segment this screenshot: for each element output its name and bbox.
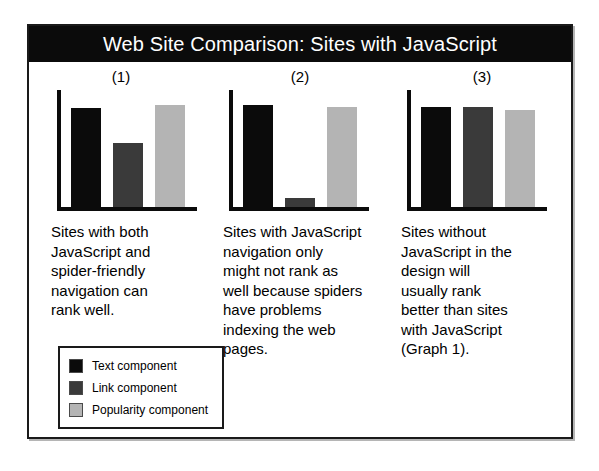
panel-1-number: (1) [15,66,227,88]
legend-item-text-component: Text component [69,355,214,376]
panel-1: (1) Sites with both JavaScript and spide… [51,66,227,320]
bar-chart-2 [223,90,383,218]
x-axis [229,207,369,211]
bar-popularity-component [155,105,185,207]
panel-2-number: (2) [201,66,399,88]
bar-popularity-component [505,110,535,207]
y-axis [57,90,61,211]
bar-link-component [463,107,493,207]
legend-item-popularity-component: Popularity component [69,399,214,420]
panel-2: (2) Sites with JavaScript navigation onl… [223,66,399,359]
bar-group [71,91,197,207]
legend-label: Link component [92,381,177,395]
bar-link-component [113,143,143,207]
bar-group [421,91,547,207]
panel-1-caption: Sites with both JavaScript and spider-fr… [51,222,223,320]
bar-popularity-component [327,107,357,207]
bar-text-component [421,107,451,207]
bar-chart-3 [401,90,561,218]
legend-label: Text component [92,359,177,373]
bar-link-component [285,198,315,207]
legend-swatch-icon [69,359,83,373]
figure-frame: Web Site Comparison: Sites with JavaScri… [27,24,573,439]
bar-chart-1 [51,90,211,218]
x-axis [57,207,197,211]
x-axis [407,207,547,211]
panel-2-caption: Sites with JavaScript navigation only mi… [223,222,395,359]
legend-swatch-icon [69,381,83,395]
bar-group [243,91,369,207]
bar-text-component [243,105,273,207]
page-title: Web Site Comparison: Sites with JavaScri… [103,33,497,56]
y-axis [407,90,411,211]
legend-swatch-icon [69,403,83,417]
legend-item-link-component: Link component [69,377,214,398]
chart-legend: Text component Link component Popularity… [58,346,224,429]
panel-3-caption: Sites without JavaScript in the design w… [401,222,573,359]
legend-label: Popularity component [92,403,208,417]
bar-text-component [71,108,101,207]
y-axis [229,90,233,211]
panel-3-number: (3) [387,66,577,88]
figure-title-bar: Web Site Comparison: Sites with JavaScri… [29,26,571,62]
panel-3: (3) Sites without JavaScript in the desi… [401,66,577,359]
